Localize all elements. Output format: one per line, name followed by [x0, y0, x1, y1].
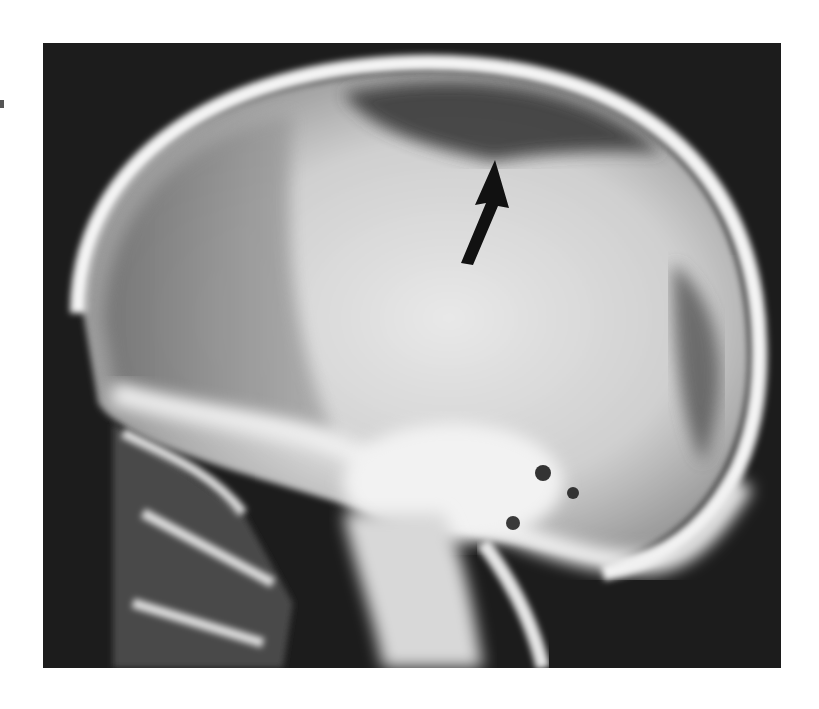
mastoid-air-cell: [567, 487, 579, 499]
skull-xray-image: [43, 43, 781, 668]
page-edge-mark: [0, 100, 4, 108]
xray-drawing: [43, 43, 781, 668]
mastoid-air-cell: [535, 465, 551, 481]
mastoid-air-cell: [506, 516, 520, 530]
